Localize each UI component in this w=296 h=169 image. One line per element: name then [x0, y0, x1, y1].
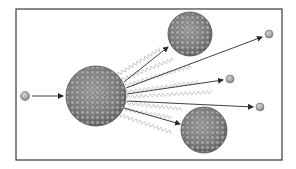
- lower-fragment-icon: [181, 107, 227, 153]
- parent-nucleus-icon: [66, 66, 126, 126]
- released-neutron-icon: [226, 75, 234, 83]
- released-neutron-icon: [265, 30, 273, 38]
- diagram-canvas: [0, 0, 296, 169]
- frame-border: [16, 9, 282, 160]
- upper-fragment-icon: [168, 12, 212, 56]
- fission-diagram: [0, 0, 296, 169]
- released-neutron-icon: [256, 103, 264, 111]
- diagram-frame: [16, 9, 282, 160]
- incoming-neutron-icon: [21, 92, 30, 101]
